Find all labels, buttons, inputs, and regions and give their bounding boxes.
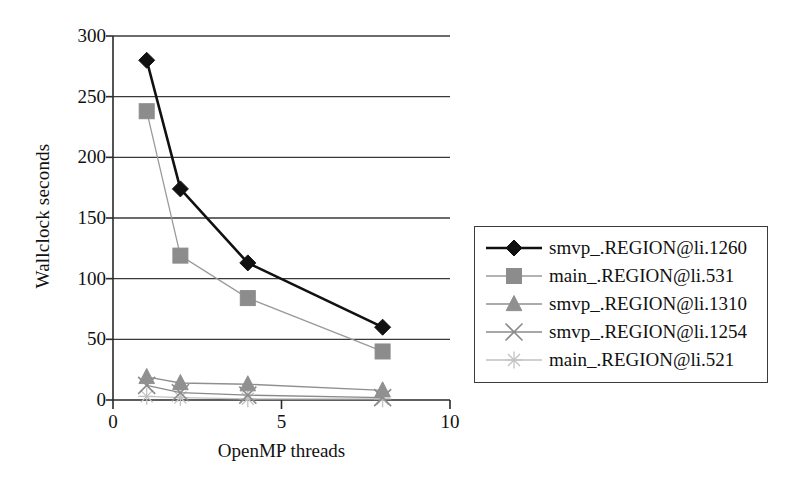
legend-marker-cross-icon <box>483 319 545 345</box>
data-point-square <box>507 269 522 284</box>
legend-item-0[interactable]: smvp_.REGION@li.1260 <box>483 234 759 262</box>
legend-label: smvp_.REGION@li.1260 <box>545 238 747 258</box>
legend-key-glyph <box>483 319 545 345</box>
data-point-triangle <box>506 296 522 311</box>
legend-key-glyph <box>483 291 545 317</box>
marker-diamond <box>506 240 522 256</box>
legend-marker-triangle-icon <box>483 291 545 317</box>
legend-marker-asterisk-icon <box>483 347 545 373</box>
chart-figure: Wallclock seconds OpenMP threads 0501001… <box>0 0 793 485</box>
data-point-diamond <box>506 240 522 256</box>
data-point-asterisk <box>506 352 523 369</box>
legend-key-glyph <box>483 347 545 373</box>
legend-marker-square-icon <box>483 263 545 289</box>
legend-label: smvp_.REGION@li.1254 <box>545 322 747 342</box>
chart-legend: smvp_.REGION@li.1260main_.REGION@li.531s… <box>474 226 768 383</box>
legend-label: smvp_.REGION@li.1310 <box>545 294 747 314</box>
legend-item-4[interactable]: main_.REGION@li.521 <box>483 346 759 374</box>
legend-label: main_.REGION@li.521 <box>545 350 734 370</box>
marker-square <box>507 269 522 284</box>
legend-key-glyph <box>483 235 545 261</box>
x-tick-label: 10 <box>420 412 480 431</box>
legend-item-1[interactable]: main_.REGION@li.531 <box>483 262 759 290</box>
x-tick-label: 0 <box>83 412 143 431</box>
legend-item-2[interactable]: smvp_.REGION@li.1310 <box>483 290 759 318</box>
x-tick-label: 5 <box>252 412 312 431</box>
legend-key-glyph <box>483 263 545 289</box>
legend-item-3[interactable]: smvp_.REGION@li.1254 <box>483 318 759 346</box>
legend-label: main_.REGION@li.531 <box>545 266 734 286</box>
marker-triangle <box>506 296 522 311</box>
legend-marker-diamond-icon <box>483 235 545 261</box>
